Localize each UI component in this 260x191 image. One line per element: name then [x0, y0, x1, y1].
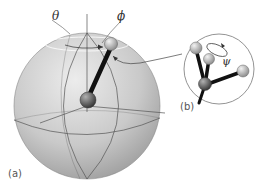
phi-label: ϕ [117, 10, 125, 22]
panel-b-label: (b) [180, 102, 194, 112]
psi-label: ψ [222, 56, 231, 67]
panel-a-label: (a) [8, 169, 22, 179]
rotation-diagram [0, 0, 260, 191]
theta-label: θ [52, 10, 59, 22]
inset-b [184, 34, 254, 104]
